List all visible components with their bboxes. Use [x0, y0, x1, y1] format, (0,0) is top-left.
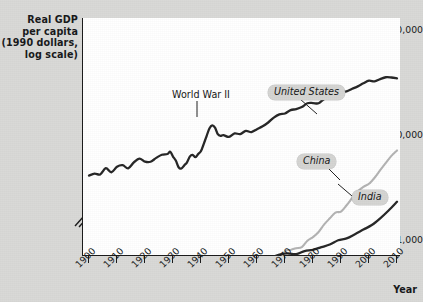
y-axis-title-line-4: log scale)	[0, 49, 78, 61]
series-label-china: China	[297, 154, 336, 169]
y-axis-title-line-2: per capita	[0, 26, 78, 38]
series-label-united-states: United States	[268, 85, 345, 100]
series-label-india: India	[352, 190, 388, 205]
y-axis-title: Real GDP per capita (1990 dollars, log s…	[0, 14, 78, 60]
annotation-world-war-ii: World War II	[172, 89, 230, 100]
series-line-india	[89, 202, 397, 256]
chart-figure: Real GDP per capita (1990 dollars, log s…	[0, 0, 423, 302]
plot-area	[82, 18, 400, 256]
x-tick-label-1900: 1900	[73, 245, 98, 270]
x-axis-title: Year	[393, 284, 417, 295]
series-canvas	[83, 18, 401, 256]
y-axis-title-line-3: (1990 dollars,	[0, 37, 78, 49]
y-axis-title-line-1: Real GDP	[0, 14, 78, 26]
series-line-united-states	[89, 77, 397, 175]
